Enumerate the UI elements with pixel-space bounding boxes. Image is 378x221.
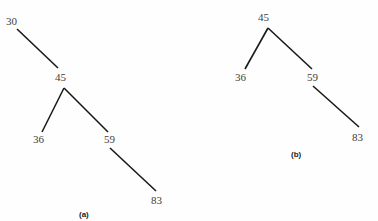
edge-a-45-59 — [64, 88, 108, 132]
tree-node-b-59: 59 — [307, 71, 318, 83]
figure-caption-a: (a) — [79, 210, 89, 220]
figure-caption-b: (b) — [291, 150, 301, 160]
edge-b-59-83 — [313, 86, 359, 127]
edge-b-45-59 — [268, 28, 312, 69]
tree-diagram-container: 30 45 36 59 83 (a) 45 36 59 83 (b) — [0, 0, 378, 221]
tree-node-a-30: 30 — [6, 15, 17, 27]
tree-node-a-36: 36 — [33, 133, 44, 145]
edge-b-45-36 — [245, 28, 268, 69]
edge-a-45-36 — [42, 88, 64, 132]
tree-node-b-83: 83 — [352, 131, 363, 143]
tree-node-b-45: 45 — [258, 11, 269, 23]
tree-node-b-36: 36 — [235, 71, 246, 83]
tree-node-a-45: 45 — [55, 71, 66, 83]
tree-node-a-83: 83 — [151, 194, 162, 206]
tree-node-a-59: 59 — [104, 133, 115, 145]
tree-edges-canvas — [0, 0, 378, 221]
edge-a-30-45 — [17, 29, 58, 68]
edge-a-59-83 — [110, 148, 156, 191]
